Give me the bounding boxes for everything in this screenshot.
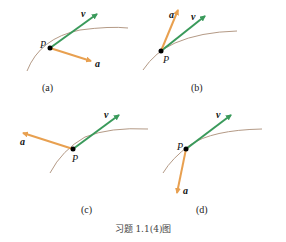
figure-canvas: P v a P v a P v a P v a (0, 0, 286, 242)
acceleration-arrow (50, 48, 91, 61)
velocity-arrow (50, 14, 97, 48)
velocity-label: v (216, 109, 221, 120)
panel-c: P v a (20, 109, 148, 173)
acceleration-label: a (169, 9, 174, 20)
trajectory-curve (143, 31, 237, 70)
acceleration-arrow (23, 133, 73, 149)
acceleration-label: a (20, 136, 25, 147)
point-p (71, 147, 76, 152)
caption-c: (c) (81, 204, 92, 215)
caption-b: (b) (191, 82, 203, 93)
panel-b: P v a (143, 9, 237, 70)
point-p (159, 49, 164, 54)
trajectory-curve (50, 129, 148, 173)
point-label: P (39, 39, 46, 50)
panel-a: P v a (27, 8, 128, 71)
figure-title: 习题 1.1(4)图 (0, 222, 286, 235)
acceleration-label: a (95, 58, 100, 69)
panel-d: P v a (163, 109, 262, 196)
velocity-label: v (191, 11, 196, 22)
point-label: P (71, 153, 78, 164)
point-p (184, 147, 189, 152)
velocity-arrow (73, 115, 119, 149)
point-p (48, 46, 53, 51)
velocity-label: v (81, 8, 86, 19)
caption-d: (d) (196, 204, 208, 215)
point-label: P (162, 54, 169, 65)
acceleration-label: a (183, 185, 188, 196)
caption-a: (a) (42, 82, 53, 93)
velocity-label: v (104, 109, 109, 120)
point-label: P (176, 141, 183, 152)
